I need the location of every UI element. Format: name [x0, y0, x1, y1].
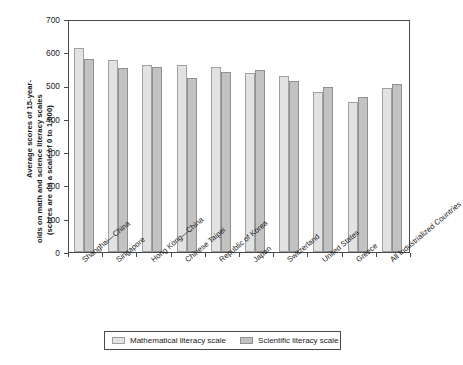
y-axis-tick-label: 300 [26, 149, 60, 157]
bar [177, 65, 187, 252]
bar-group [69, 21, 103, 252]
bar-group [206, 21, 240, 252]
bar-group [343, 21, 377, 252]
legend-swatch-mathematical-icon [112, 337, 125, 344]
x-axis-tick-mark [410, 253, 411, 257]
x-axis-tick-mark [205, 253, 206, 257]
x-axis-tick-mark [376, 253, 377, 257]
bar [279, 76, 289, 252]
legend-label-mathematical: Mathematical literacy scale [130, 337, 226, 345]
legend-item-mathematical: Mathematical literacy scale [112, 337, 226, 345]
y-axis-tick-label: 500 [26, 82, 60, 90]
y-axis-tick-label: 700 [26, 16, 60, 24]
x-axis-tick-mark [342, 253, 343, 257]
y-axis-title: Average scores of 15-year- olds on math … [0, 0, 58, 250]
bars-container [69, 21, 409, 252]
bar-group [103, 21, 137, 252]
y-axis-tick-label: 200 [26, 182, 60, 190]
x-axis-tick-mark [307, 253, 308, 257]
bar [84, 59, 94, 252]
bar-group [137, 21, 171, 252]
legend-item-scientific: Scientific literacy scale [240, 337, 338, 345]
x-axis-tick-mark [171, 253, 172, 257]
x-axis-tick-mark [239, 253, 240, 257]
bar [313, 92, 323, 252]
bar [392, 84, 402, 252]
chart-legend: Mathematical literacy scale Scientific l… [104, 331, 341, 350]
y-axis-tick-label: 600 [26, 49, 60, 57]
legend-label-scientific: Scientific literacy scale [258, 337, 338, 345]
bar [211, 67, 221, 252]
x-axis-tick-mark [68, 253, 69, 257]
bar-group [308, 21, 342, 252]
y-axis-tick-label: 400 [26, 116, 60, 124]
bar [108, 60, 118, 252]
bar [289, 81, 299, 252]
y-axis-tick-label: 0 [26, 249, 60, 257]
bar [358, 97, 368, 252]
bar [323, 87, 333, 252]
plot-area [68, 20, 410, 253]
x-axis-tick-mark [273, 253, 274, 257]
bar-group [240, 21, 274, 252]
legend-swatch-scientific-icon [240, 337, 253, 344]
y-axis-title-line-1: Average scores of 15-year- [25, 80, 35, 178]
bar [152, 67, 162, 252]
bar-group [274, 21, 308, 252]
x-axis-tick-mark [136, 253, 137, 257]
y-axis-tick-label: 100 [26, 216, 60, 224]
bar-group [377, 21, 411, 252]
x-axis-tick-mark [102, 253, 103, 257]
bar [382, 88, 392, 252]
bar [142, 65, 152, 252]
bar [74, 48, 84, 252]
